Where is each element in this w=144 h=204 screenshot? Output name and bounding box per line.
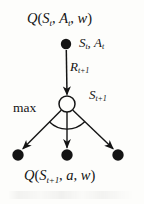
action-symbol-top: A [59, 10, 68, 26]
figure-canvas: Q(St, At, w) St, At Rt+1 St+1 max Q(St+1… [0, 0, 144, 204]
state-action-label: St, At [79, 36, 104, 51]
reward-label: Rt+1 [70, 60, 89, 75]
action-symbol: A [94, 35, 102, 50]
state-action-node [61, 39, 71, 49]
reward-subscript: t+1 [78, 66, 89, 75]
edge-branch-left [23, 110, 61, 149]
next-state-node [59, 96, 75, 112]
edge-branch-right [73, 110, 113, 149]
weights-symbol-bottom: w [81, 167, 91, 183]
close-paren-top: ) [87, 10, 92, 26]
state-symbol-top: S [42, 10, 49, 26]
q-value-label-top: Q(St, At, w) [27, 11, 92, 28]
q-symbol-bottom: Q [24, 167, 34, 183]
comma-two-top: , [70, 10, 77, 26]
leaf-action-node-right [112, 149, 123, 160]
state-subscript-bottom: t+1 [47, 175, 59, 185]
scan-artifact [8, 191, 136, 199]
state-symbol-bottom: S [39, 167, 46, 183]
next-state-label: St+1 [89, 88, 107, 103]
max-operator-label: max [13, 101, 36, 115]
leaf-action-node-left [12, 149, 23, 160]
leaf-action-node-center [61, 149, 72, 160]
q-value-label-bottom: Q(St+1, a, w) [24, 168, 95, 185]
action-subscript: t [102, 42, 104, 51]
next-state-subscript: t+1 [96, 94, 107, 103]
reward-symbol: R [70, 59, 78, 74]
action-symbol-bottom: a [66, 167, 73, 183]
edge-reward [66, 50, 67, 95]
close-paren-bottom: ) [90, 167, 95, 183]
weights-symbol-top: w [78, 10, 88, 26]
q-symbol-top: Q [27, 10, 37, 26]
comma-two-bottom: , [74, 167, 81, 183]
